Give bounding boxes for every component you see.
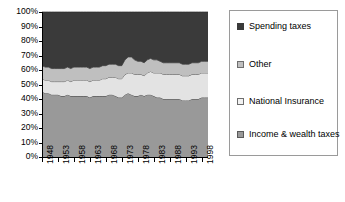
x-axis-tick-label: 1958: [78, 145, 87, 164]
x-axis-tick-label: 1998: [206, 145, 215, 164]
x-axis-tick-label: 1993: [190, 145, 199, 164]
legend-item-label: Income & wealth taxes: [249, 129, 340, 140]
chart-screenshot: 100%90%80%70%60%50%40%30%20%10%0% 194819…: [0, 0, 345, 202]
legend-swatch-icon: [237, 61, 244, 68]
chart-legend: Spending taxesOtherNational InsuranceInc…: [229, 10, 338, 156]
x-axis-tick-label: 1983: [158, 145, 167, 164]
legend-item[interactable]: National Insurance: [237, 96, 341, 107]
stacked-area-chart: 100%90%80%70%60%50%40%30%20%10%0% 194819…: [0, 0, 215, 202]
legend-item[interactable]: Other: [237, 59, 341, 70]
x-axis-tick-label: 1953: [62, 145, 71, 164]
legend-swatch-icon: [237, 23, 244, 30]
x-axis-tick-label: 1948: [46, 145, 55, 164]
x-axis-tick-label: 1963: [94, 145, 103, 164]
legend-item-label: Spending taxes: [249, 21, 311, 32]
x-axis-tick-labels: 1948195319581963196819731978198319881993…: [0, 0, 215, 202]
legend-item-label: National Insurance: [249, 96, 324, 107]
legend-item[interactable]: Income & wealth taxes: [237, 129, 341, 140]
legend-item[interactable]: Spending taxes: [237, 21, 341, 32]
legend-swatch-icon: [237, 131, 244, 138]
x-axis-tick-label: 1988: [174, 145, 183, 164]
x-axis-tick-label: 1978: [142, 145, 151, 164]
legend-swatch-icon: [237, 98, 244, 105]
legend-item-label: Other: [249, 59, 272, 70]
x-axis-tick-label: 1973: [126, 145, 135, 164]
x-axis-tick-label: 1968: [110, 145, 119, 164]
